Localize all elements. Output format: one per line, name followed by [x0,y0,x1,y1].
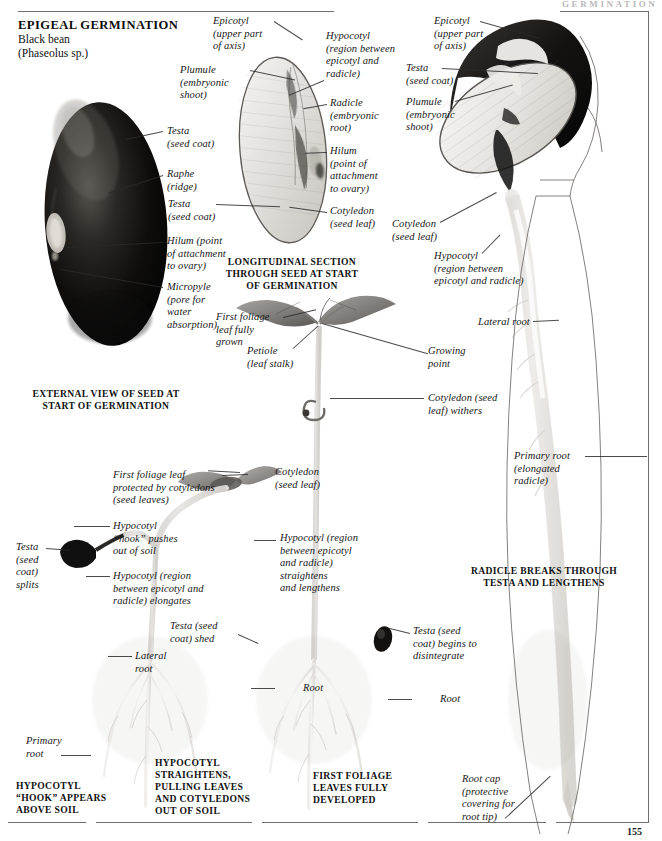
species-name: (Phaseolus sp.) [18,47,88,61]
label-hilum-section: Hilum (point of attachment to ovary) [330,145,378,195]
label-root-foliage: Root [440,693,460,706]
label-growing-point: Growing point [428,345,466,370]
label-hypocotyl-hook: Hypocotyl “hook” pushes out of soil [113,520,178,558]
label-first-foliage-protected: First foliage leaf protected by cotyledo… [113,469,215,507]
label-testa-disintegrates: Testa (seed coat) begins to disintegrate [413,625,477,663]
label-cotyledon-germ: Cotyledon (seed leaf) [392,218,437,243]
label-root-straight: Root [303,682,323,695]
top-rule-left [18,11,334,12]
label-lateral-root-germ: Lateral root [478,316,530,329]
label-cotyledon-straight: Cotyledon (seed leaf) [275,466,320,491]
caption-straightens: HYPOCOTYL STRAIGHTENS, PULLING LEAVES AN… [155,757,250,817]
caption-longitudinal-section: LONGITUDINAL SECTION THROUGH SEED AT STA… [216,256,368,292]
label-testa-splits: Testa (seed coat) splits [16,541,39,591]
leader-root-straight [251,688,275,689]
label-plumule-section: Plumule (embryonic shoot) [180,64,229,102]
leader-primary-root-hook [61,755,91,756]
bottom-rule-3 [262,822,418,823]
label-radicle-section: Radicle (embryonic root) [330,97,379,135]
label-testa-external: Testa (seed coat) [167,125,214,150]
bottom-rule-1 [8,822,86,823]
label-hypocotyl-elongates: Hypocotyl (region between epicotyl and r… [113,570,204,608]
leader-cotyledon-withers [330,398,424,399]
caption-radicle-breaks: RADICLE BREAKS THROUGH TESTA AND LENGTHE… [460,565,628,589]
bottom-rule-2 [96,822,252,823]
leader-hypocotyl-elongates [86,576,110,577]
label-epicotyl-section: Epicotyl (upper part of axis) [213,15,262,53]
label-epicotyl-germ: Epicotyl (upper part of axis) [434,15,483,53]
label-plumule-germ: Plumule (embryonic shoot) [406,96,455,134]
page-title: EPIGEAL GERMINATION [18,18,178,33]
label-testa-shed: Testa (seed coat) shed [170,620,218,645]
label-micropyle: Micropyle (pore for water absorption) [167,281,217,331]
leader-primary-root-germ [585,456,647,457]
art-black-bean-external [37,91,176,350]
label-first-foliage-grown: First foliage leaf fully grown [216,311,270,349]
germination-plate-page: GERMINATION 155 EPIGEAL GERMINATION Blac… [0,0,662,841]
leader-root-foliage [388,699,412,700]
caption-external-view: EXTERNAL VIEW OF SEED AT START OF GERMIN… [26,388,186,412]
running-head: GERMINATION [562,0,657,9]
page-number: 155 [627,826,642,837]
leader-hypocotyl-hook [74,526,110,527]
label-lateral-root-hook: Lateral root [135,650,167,675]
leader-lateral-root-hook [108,656,132,657]
label-raphe: Raphe (ridge) [167,168,197,193]
label-cotyledon-section: Cotyledon (seed leaf) [330,205,375,230]
label-hypocotyl-straightens: Hypocotyl (region between epicotyl and r… [280,532,358,595]
label-cotyledon-withers: Cotyledon (seed leaf) withers [428,392,497,417]
label-testa-section: Testa (seed coat) [168,198,215,223]
caption-hook-appears: HYPOCOTYL “HOOK” APPEARS ABOVE SOIL [16,780,106,816]
label-primary-root-germ: Primary root (elongated radicle) [514,450,570,488]
label-hypocotyl-germ: Hypocotyl (region between epicotyl and r… [434,250,524,288]
common-name: Black bean [18,33,70,47]
caption-first-foliage: FIRST FOLIAGE LEAVES FULLY DEVELOPED [313,770,392,806]
label-primary-root-hook: Primary root [26,735,62,760]
label-hypocotyl-section: Hypocotyl (region between epicotyl and r… [326,30,395,80]
label-petiole: Petiole (leaf stalk) [247,345,293,370]
right-border [648,11,649,823]
top-rule-right [560,11,648,12]
leader-hypocotyl-straightens [254,540,276,541]
bottom-rule-5 [556,822,648,823]
label-testa-germ: Testa (seed coat) [406,62,453,87]
